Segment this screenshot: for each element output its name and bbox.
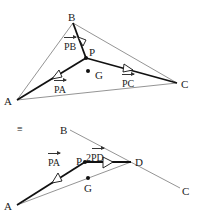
- vector-label-pa: PA: [54, 80, 66, 95]
- arrowhead-pa-icon: [52, 70, 62, 79]
- label-c-bottom: C: [182, 186, 189, 197]
- bottom-arrowheads: [52, 157, 113, 183]
- label-p-top: P: [89, 47, 95, 58]
- label-a-top: A: [4, 96, 12, 107]
- label-b-bottom: B: [60, 125, 67, 136]
- point-g-bottom: [86, 176, 90, 180]
- vector-label-pa-bottom: PA: [48, 153, 60, 168]
- vector-label-pc: PC: [122, 74, 134, 89]
- label-p-bottom: P: [76, 156, 82, 167]
- label-b-top: B: [68, 12, 75, 23]
- arrowhead-pa-bottom-icon: [52, 173, 62, 183]
- vector-label-pb: PB: [64, 37, 76, 52]
- label-d-bottom: D: [135, 157, 143, 168]
- vector-label-2pd: 2PD: [86, 148, 104, 163]
- label-g-top: G: [95, 70, 103, 81]
- equivalence-symbol: ≡: [17, 124, 23, 134]
- point-p-top: [84, 56, 88, 60]
- bottom-thin-lines: [17, 130, 180, 205]
- top-vectors: [17, 23, 177, 100]
- label-g-bottom: G: [84, 183, 92, 194]
- label-a-bottom: A: [4, 201, 12, 212]
- point-g-top: [86, 69, 90, 73]
- diagram-canvas: [0, 0, 198, 220]
- arrowhead-pd-icon: [103, 157, 113, 168]
- label-c-top: C: [181, 79, 188, 90]
